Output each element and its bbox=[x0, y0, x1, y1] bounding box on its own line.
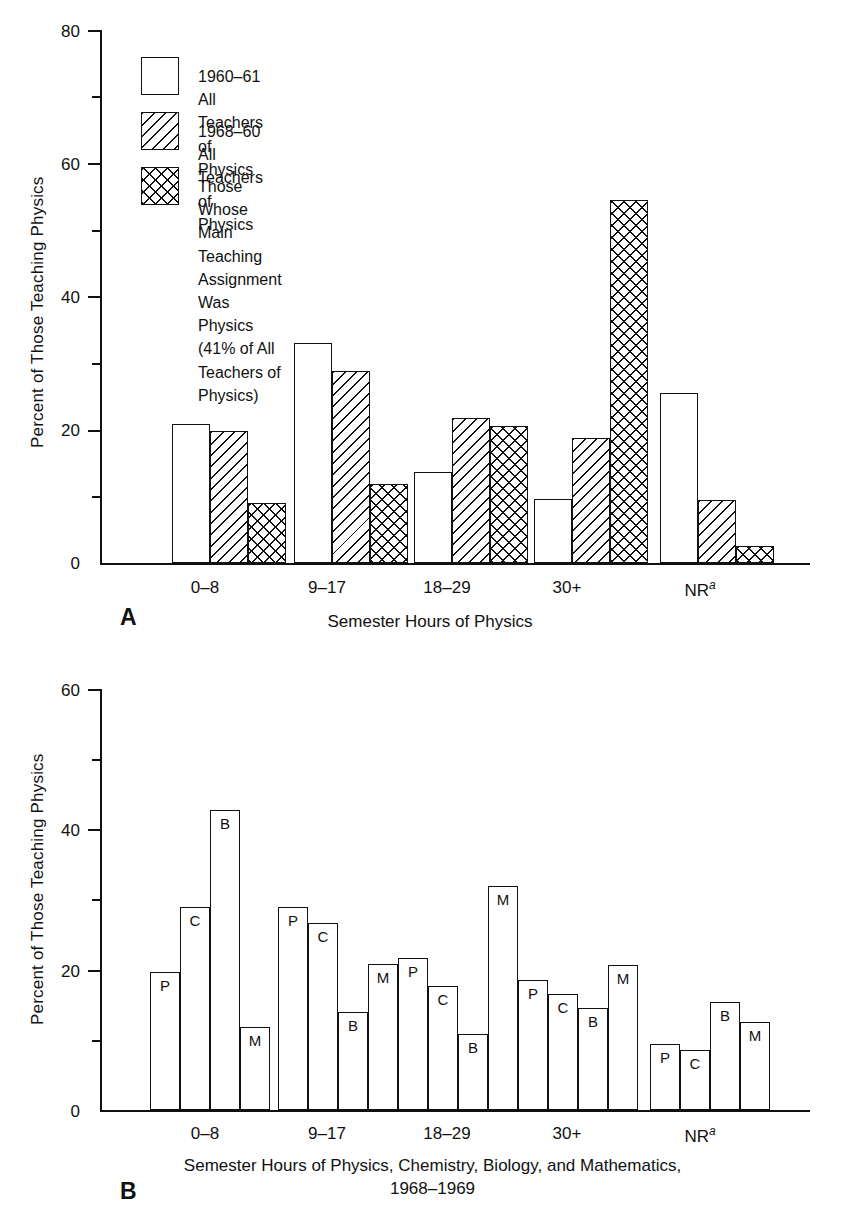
panel-a-cat-4-superscript: a bbox=[709, 578, 716, 592]
bar-a-3-0 bbox=[534, 499, 572, 563]
bar-a-1-1 bbox=[332, 371, 370, 563]
panel-a-cat-4: NRa bbox=[645, 578, 755, 601]
panel-b-cat-3: 30+ bbox=[512, 1124, 622, 1144]
bar-letter-m: M bbox=[497, 892, 510, 907]
bar-b-2-0: P bbox=[398, 958, 428, 1110]
bar-a-4-1 bbox=[698, 500, 736, 563]
panel-b-tick-50 bbox=[92, 759, 101, 761]
panel-b-cat-2-text: 18–29 bbox=[423, 1124, 470, 1143]
panel-b-tick-60 bbox=[88, 689, 101, 691]
panel-b-cat-2: 18–29 bbox=[392, 1124, 502, 1144]
bar-a-2-2 bbox=[490, 426, 528, 563]
panel-a-ytick-0: 0 bbox=[36, 554, 80, 574]
bar-a-3-1 bbox=[572, 438, 610, 563]
panel-a-tick-40 bbox=[88, 296, 101, 298]
bar-b-0-3: M bbox=[240, 1027, 270, 1110]
bar-a-4-0 bbox=[660, 393, 698, 563]
bar-letter-b: B bbox=[588, 1014, 598, 1029]
bar-letter-p: P bbox=[408, 964, 418, 979]
panel-b-x-axis bbox=[100, 1110, 810, 1112]
panel-b-cat-0: 0–8 bbox=[150, 1124, 260, 1144]
panel-a-tick-10 bbox=[92, 496, 101, 498]
panel-a-cat-2: 18–29 bbox=[392, 578, 502, 598]
bar-letter-p: P bbox=[660, 1050, 670, 1065]
panel-b-ytick-20: 20 bbox=[36, 962, 80, 982]
panel-a-cat-4-text: NR bbox=[684, 581, 709, 600]
bar-letter-c: C bbox=[558, 1000, 569, 1015]
bar-letter-b: B bbox=[468, 1040, 478, 1055]
panel-b-x-axis-title-line1: Semester Hours of Physics, Chemistry, Bi… bbox=[0, 1155, 865, 1178]
panel-a-x-axis bbox=[100, 563, 810, 565]
panel-b-cat-3-text: 30+ bbox=[553, 1124, 582, 1143]
bar-letter-p: P bbox=[288, 913, 298, 928]
bar-letter-m: M bbox=[617, 971, 630, 986]
panel-a-cat-3: 30+ bbox=[512, 578, 622, 598]
bar-b-4-1: C bbox=[680, 1050, 710, 1110]
bar-b-0-0: P bbox=[150, 972, 180, 1110]
bar-b-4-0: P bbox=[650, 1044, 680, 1110]
bar-b-1-3: M bbox=[368, 964, 398, 1110]
legend-swatch-crosshatch-icon bbox=[141, 167, 179, 205]
bar-a-2-0 bbox=[414, 472, 452, 563]
bar-a-1-0 bbox=[294, 343, 332, 563]
panel-b-tick-30 bbox=[92, 899, 101, 901]
bar-b-2-1: C bbox=[428, 986, 458, 1110]
panel-b-cat-1: 9–17 bbox=[272, 1124, 382, 1144]
panel-a-cat-1: 9–17 bbox=[272, 578, 382, 598]
bar-b-3-3: M bbox=[608, 965, 638, 1110]
panel-a-letter: A bbox=[120, 604, 137, 631]
panel-a-x-axis-title: Semester Hours of Physics bbox=[300, 612, 560, 632]
panel-b-plot-area: PCBMPCBMPCBMPCBMPCBM bbox=[102, 689, 810, 1110]
bar-b-3-2: B bbox=[578, 1008, 608, 1110]
panel-a-ytick-40: 40 bbox=[36, 288, 80, 308]
panel-b-cat-1-text: 9–17 bbox=[308, 1124, 346, 1143]
panel-b-cat-4: NRa bbox=[645, 1124, 755, 1147]
legend-row-2: Those Whose Main Teaching Assignment Was… bbox=[141, 167, 282, 407]
bar-b-3-0: P bbox=[518, 980, 548, 1110]
bar-b-2-2: B bbox=[458, 1034, 488, 1110]
panel-b-cat-0-text: 0–8 bbox=[191, 1124, 219, 1143]
legend-swatch-diagonal-icon bbox=[141, 112, 179, 150]
panel-b-cat-4-text: NR bbox=[684, 1127, 709, 1146]
panel-a-tick-80 bbox=[88, 30, 101, 32]
panel-a-ytick-20: 20 bbox=[36, 421, 80, 441]
panel-a-tick-60 bbox=[88, 163, 101, 165]
bar-letter-m: M bbox=[749, 1028, 762, 1043]
panel-a-cat-0-text: 0–8 bbox=[191, 578, 219, 597]
bar-b-4-3: M bbox=[740, 1022, 770, 1110]
panel-a-tick-20 bbox=[88, 430, 101, 432]
bar-a-0-2 bbox=[248, 503, 286, 563]
bar-letter-p: P bbox=[528, 986, 538, 1001]
legend-label-2: Those Whose Main Teaching Assignment Was… bbox=[198, 167, 282, 407]
panel-b-letter: B bbox=[120, 1178, 137, 1205]
bar-b-1-1: C bbox=[308, 923, 338, 1110]
bar-a-0-0 bbox=[172, 424, 210, 563]
panel-b-ytick-60: 60 bbox=[36, 681, 80, 701]
bar-a-0-1 bbox=[210, 431, 248, 563]
bar-a-3-2 bbox=[610, 200, 648, 563]
panel-a-cat-3-text: 30+ bbox=[553, 578, 582, 597]
panel-a-tick-70 bbox=[92, 96, 101, 98]
bar-a-4-2 bbox=[736, 546, 774, 563]
bar-b-0-1: C bbox=[180, 907, 210, 1110]
bar-b-0-2: B bbox=[210, 810, 240, 1110]
bar-b-1-0: P bbox=[278, 907, 308, 1110]
bar-letter-m: M bbox=[377, 970, 390, 985]
panel-a-cat-1-text: 9–17 bbox=[308, 578, 346, 597]
panel-b-tick-20 bbox=[88, 970, 101, 972]
bar-b-3-1: C bbox=[548, 994, 578, 1110]
panel-b-tick-10 bbox=[92, 1040, 101, 1042]
bar-b-1-2: B bbox=[338, 1012, 368, 1110]
panel-a-ytick-60: 60 bbox=[36, 155, 80, 175]
panel-b-ytick-0: 0 bbox=[36, 1102, 80, 1122]
bar-letter-b: B bbox=[220, 816, 230, 831]
bar-letter-b: B bbox=[720, 1008, 730, 1023]
panel-b-ytick-40: 40 bbox=[36, 821, 80, 841]
bar-letter-c: C bbox=[438, 992, 449, 1007]
bar-a-1-2 bbox=[370, 484, 408, 563]
panel-b-tick-40 bbox=[88, 829, 101, 831]
bar-b-2-3: M bbox=[488, 886, 518, 1110]
panel-a-cat-0: 0–8 bbox=[150, 578, 260, 598]
bar-letter-c: C bbox=[318, 929, 329, 944]
bar-letter-p: P bbox=[160, 978, 170, 993]
